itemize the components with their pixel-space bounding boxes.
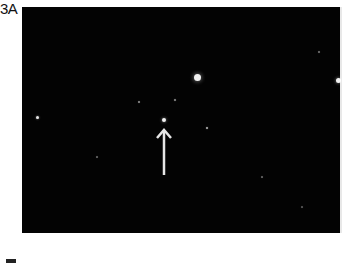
star bbox=[36, 116, 39, 119]
footer-mark bbox=[6, 259, 16, 263]
star bbox=[206, 127, 208, 129]
star bbox=[194, 74, 201, 81]
star bbox=[261, 176, 262, 177]
star bbox=[336, 78, 341, 83]
star bbox=[138, 101, 139, 102]
star bbox=[162, 118, 166, 122]
arrow-up-icon bbox=[154, 128, 174, 177]
star bbox=[96, 156, 97, 157]
star bbox=[301, 206, 302, 207]
panel-label: 3A bbox=[0, 0, 17, 18]
star-field-image bbox=[22, 7, 342, 233]
star bbox=[174, 99, 176, 101]
star bbox=[318, 51, 319, 52]
